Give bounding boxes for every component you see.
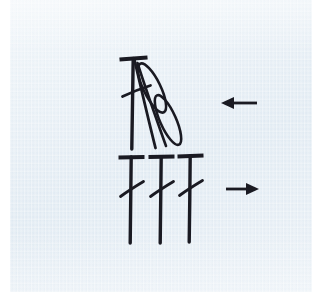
arrow-right-head	[246, 183, 259, 195]
notation-drawing	[0, 0, 312, 308]
figure-root: Two groups of note stems with diagonal s…	[0, 0, 312, 308]
arrow-left-head	[221, 97, 234, 109]
arrow-left	[221, 97, 257, 109]
upper-note-group	[120, 58, 187, 150]
arrow-right	[226, 183, 259, 195]
lower-note-group	[119, 156, 204, 244]
grace-loop-lower	[150, 92, 187, 148]
lower-stem-2	[160, 157, 161, 243]
lower-stem-1	[130, 157, 131, 243]
lower-stem-3	[189, 156, 190, 242]
upper-stem	[132, 59, 133, 150]
